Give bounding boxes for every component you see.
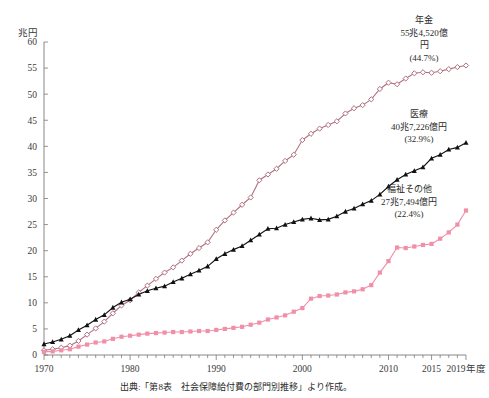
x-tick-label: 1980 xyxy=(121,364,140,374)
y-tick-label: 50 xyxy=(28,90,38,100)
y-tick-label: 60 xyxy=(28,37,38,47)
social-security-benefits-chart: 051015202530354045505560 197019801990200… xyxy=(0,0,489,398)
y-tick-label: 30 xyxy=(28,194,38,204)
series-welfare xyxy=(42,208,468,354)
y-tick-label: 45 xyxy=(28,116,38,126)
y-tick-label: 20 xyxy=(28,246,38,256)
y-tick-label: 10 xyxy=(28,298,38,308)
y-tick-label: 5 xyxy=(32,324,37,334)
annotation-line: 福祉その他 xyxy=(387,183,432,194)
annotation-line: 55兆4,520億 xyxy=(400,27,447,38)
y-tick-label: 40 xyxy=(28,142,38,152)
y-tick-label: 35 xyxy=(28,168,38,178)
annotation-line: 27兆7,494億円 xyxy=(381,196,437,207)
annotation-line: (44.7%) xyxy=(409,53,438,63)
x-axis: 1970198019902000201020152019年度 xyxy=(35,355,486,374)
series-annotations: 年金55兆4,520億円(44.7%)医療40兆7,226億円(32.9%)福祉… xyxy=(381,14,448,219)
annotation-line: 円 xyxy=(420,40,429,50)
x-tick-label: 2015 xyxy=(422,364,441,374)
medical-annotation: 医療40兆7,226億円(32.9%) xyxy=(391,108,447,144)
x-tick-label: 1990 xyxy=(207,364,226,374)
y-tick-label: 0 xyxy=(32,350,37,360)
x-tick-label: 1970 xyxy=(35,364,54,374)
y-tick-label: 15 xyxy=(28,272,38,282)
source-note: 出典:「第8表 社会保障給付費の部門別推移」より作成。 xyxy=(120,381,352,392)
welfare-annotation: 福祉その他27兆7,494億円(22.4%) xyxy=(381,183,437,219)
y-tick-label: 25 xyxy=(28,220,38,230)
x-tick-label: 2000 xyxy=(293,364,312,374)
x-tick-label: 2010 xyxy=(379,364,398,374)
annotation-line: 医療 xyxy=(410,108,428,119)
y-axis-unit-label: 兆円 xyxy=(18,28,38,38)
annotation-line: (22.4%) xyxy=(394,209,423,219)
x-tick-label: 2019年度 xyxy=(447,363,486,374)
pension-annotation: 年金55兆4,520億円(44.7%) xyxy=(400,14,447,63)
series-medical xyxy=(42,140,469,346)
y-axis: 051015202530354045505560 xyxy=(28,37,49,360)
annotation-line: 年金 xyxy=(415,14,433,25)
annotation-line: 40兆7,226億円 xyxy=(391,121,447,132)
annotation-line: (32.9%) xyxy=(404,134,433,144)
chart-svg: 051015202530354045505560 197019801990200… xyxy=(0,0,489,398)
series-pension xyxy=(41,63,468,353)
y-tick-label: 55 xyxy=(28,63,38,73)
